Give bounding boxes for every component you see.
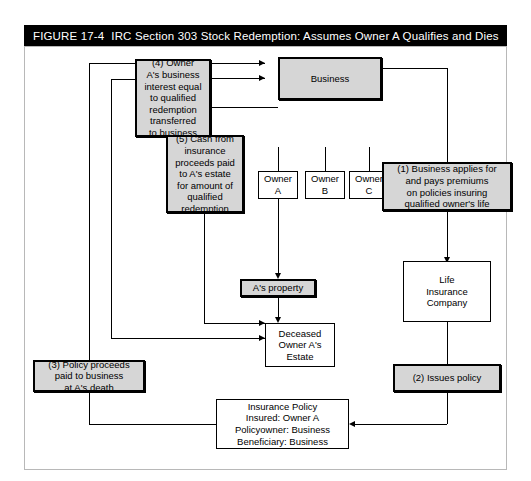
node-life-insurance-company[interactable]: LifeInsuranceCompany [403,261,491,322]
node-step2-label: (2) Issues policy [411,372,484,384]
connector-insurer-to-step2 [447,322,448,364]
connector-business-trunk-owner-c [369,147,370,171]
arrow-into-business-top [259,60,265,66]
connector-step5-to-estate-vertical [204,213,205,323]
connector-step4-loop-vertical [111,79,112,338]
node-insurance-policy[interactable]: Insurance PolicyInsured: Owner APolicyow… [216,399,349,449]
connector-step3-to-policy-horizontal [89,424,216,425]
node-owner-a-label: OwnerA [262,173,294,196]
connector-step2-to-policy-vertical [447,392,448,424]
connector-business-to-step5-top [211,107,278,108]
connector-business-trunk-owner-a [278,147,279,171]
figure-title-bar: FIGURE 17-4 IRC Section 303 Stock Redemp… [24,25,507,46]
connector-step1-to-insurer [447,211,448,261]
node-owner-c-label: OwnerC [353,173,385,196]
node-step3-label: (3) Policy proceedspaid to businessat A'… [46,359,131,394]
connector-step4-to-business [211,78,265,79]
node-owner-a[interactable]: OwnerA [258,171,298,199]
node-a-property[interactable]: A's property [240,279,316,297]
connector-business-to-step3-vertical [89,63,90,376]
arrow-step2-into-policy [349,421,355,427]
node-step5-label: (5) Cash frominsuranceproceeds paidto A'… [173,133,237,214]
arrow-step4-into-business [259,75,265,81]
node-insurance-policy-label: Insurance PolicyInsured: Owner APolicyow… [233,401,332,447]
node-business-label: Business [309,73,352,85]
connector-owner-a-to-property [278,199,279,277]
figure-title: IRC Section 303 Stock Redemption: Assume… [111,30,498,42]
node-a-property-label: A's property [251,282,305,294]
node-owner-b[interactable]: OwnerB [305,171,345,199]
node-life-insurance-company-label: LifeInsuranceCompany [424,274,470,309]
connector-step2-to-policy-horizontal [355,424,447,425]
connector-business-trunk-owner-b [325,147,326,171]
node-business[interactable]: Business [278,57,382,100]
figure-container: FIGURE 17-4 IRC Section 303 Stock Redemp… [0,0,531,481]
node-deceased-estate-label: DeceasedOwner A'sEstate [277,328,324,363]
node-step1-label: (1) Business applies forand pays premium… [395,163,498,209]
figure-number: FIGURE 17-4 [33,30,104,42]
diagram-frame: (4) OwnerA's businessinterest equalto qu… [24,46,507,470]
node-step2[interactable]: (2) Issues policy [393,364,501,392]
node-deceased-estate[interactable]: DeceasedOwner A'sEstate [265,323,335,367]
node-step1[interactable]: (1) Business applies forand pays premium… [382,162,512,211]
node-step3[interactable]: (3) Policy proceedspaid to businessat A'… [33,360,145,392]
node-owner-b-label: OwnerB [309,173,341,196]
node-step5[interactable]: (5) Cash frominsuranceproceeds paidto A'… [166,135,244,213]
node-step4[interactable]: (4) OwnerA's businessinterest equalto qu… [135,59,211,137]
connector-business-to-step1-horizontal [382,68,448,69]
connector-step5-to-estate-horizontal [204,323,265,324]
connector-business-to-step1-vertical [447,68,448,162]
node-step4-label: (4) OwnerA's businessinterest equalto qu… [142,57,203,138]
connector-step4-loop-bottom [111,338,265,339]
connector-step3-to-policy-vertical [89,392,90,425]
connector-step4-loop-top [111,79,135,80]
